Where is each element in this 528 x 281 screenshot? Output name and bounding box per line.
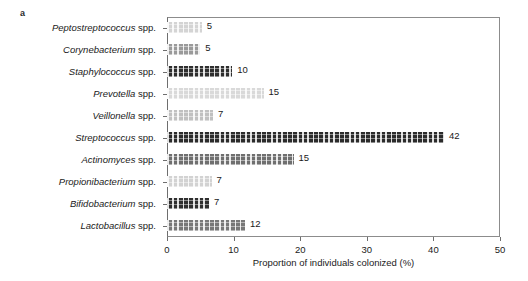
- bar-row[interactable]: 15: [167, 149, 500, 171]
- bar-row[interactable]: 15: [167, 83, 500, 105]
- category-label: Prevotella spp.: [93, 83, 156, 105]
- bar[interactable]: [167, 176, 212, 187]
- x-axis-tick-label: 10: [228, 244, 239, 255]
- category-label: Streptococcus spp.: [75, 127, 156, 149]
- category-label: Lactobacillus spp.: [80, 215, 156, 237]
- category-label: Veillonella spp.: [92, 105, 156, 127]
- x-axis-tick-label: 20: [295, 244, 306, 255]
- genus-name: Staphylococcus: [69, 66, 136, 77]
- bar[interactable]: [167, 44, 200, 55]
- genus-name: Propionibacterium: [59, 176, 136, 187]
- x-axis-tick: [367, 237, 368, 241]
- bar-row[interactable]: 42: [167, 127, 500, 149]
- genus-name: Actinomyces: [82, 154, 136, 165]
- bar-value-label: 10: [237, 64, 248, 75]
- genus-name: Corynebacterium: [63, 44, 135, 55]
- x-axis-tick: [300, 237, 301, 241]
- category-axis-labels: Peptostreptococcus spp.Corynebacterium s…: [0, 17, 162, 237]
- genus-name: Streptococcus: [75, 132, 135, 143]
- bar[interactable]: [167, 22, 202, 33]
- genus-name: Peptostreptococcus: [52, 22, 135, 33]
- category-label: Bifidobacterium spp.: [70, 193, 156, 215]
- species-suffix: spp.: [135, 220, 156, 231]
- bar-value-label: 7: [217, 174, 222, 185]
- bar[interactable]: [167, 66, 232, 77]
- bar-value-label: 12: [250, 218, 261, 229]
- category-label: Actinomyces spp.: [82, 149, 156, 171]
- x-axis-tick: [167, 237, 168, 241]
- category-label: Peptostreptococcus spp.: [52, 17, 156, 39]
- x-axis-tick-label: 40: [428, 244, 439, 255]
- genus-name: Prevotella: [93, 88, 135, 99]
- x-axis-tick: [500, 237, 501, 241]
- species-suffix: spp.: [135, 176, 156, 187]
- x-axis-tick-label: 0: [164, 244, 169, 255]
- species-suffix: spp.: [135, 110, 156, 121]
- x-axis-tick: [234, 237, 235, 241]
- bar-value-label: 42: [449, 130, 460, 141]
- species-suffix: spp.: [135, 154, 156, 165]
- x-axis-tick-label: 30: [362, 244, 373, 255]
- bar[interactable]: [167, 132, 444, 143]
- figure-panel-a: a Peptostreptococcus spp.Corynebacterium…: [0, 0, 528, 281]
- bar[interactable]: [167, 110, 213, 121]
- species-suffix: spp.: [135, 44, 156, 55]
- genus-name: Veillonella: [92, 110, 135, 121]
- bar-value-label: 7: [214, 196, 219, 207]
- bar-row[interactable]: 5: [167, 17, 500, 39]
- bar-value-label: 5: [205, 42, 210, 53]
- plot-area: 55101574215771201020304050: [167, 17, 500, 237]
- species-suffix: spp.: [135, 88, 156, 99]
- bar[interactable]: [167, 88, 264, 99]
- bar-value-label: 7: [218, 108, 223, 119]
- bar[interactable]: [167, 154, 294, 165]
- bar-value-label: 5: [207, 20, 212, 31]
- bar-row[interactable]: 7: [167, 105, 500, 127]
- genus-name: Bifidobacterium: [70, 198, 135, 209]
- species-suffix: spp.: [135, 198, 156, 209]
- bar-value-label: 15: [299, 152, 310, 163]
- category-label: Propionibacterium spp.: [59, 171, 156, 193]
- species-suffix: spp.: [135, 66, 156, 77]
- x-axis-title: Proportion of individuals colonized (%): [167, 257, 500, 268]
- x-axis-tick: [433, 237, 434, 241]
- species-suffix: spp.: [135, 132, 156, 143]
- category-label: Corynebacterium spp.: [63, 39, 156, 61]
- bar-row[interactable]: 10: [167, 61, 500, 83]
- bar-row[interactable]: 12: [167, 215, 500, 237]
- genus-name: Lactobacillus: [80, 220, 135, 231]
- bar-row[interactable]: 7: [167, 171, 500, 193]
- bar-row[interactable]: 5: [167, 39, 500, 61]
- bar-row[interactable]: 7: [167, 193, 500, 215]
- bar-value-label: 15: [269, 86, 280, 97]
- bar[interactable]: [167, 198, 209, 209]
- bar[interactable]: [167, 220, 245, 231]
- category-label: Staphylococcus spp.: [69, 61, 156, 83]
- x-axis-tick-label: 50: [495, 244, 506, 255]
- species-suffix: spp.: [135, 22, 156, 33]
